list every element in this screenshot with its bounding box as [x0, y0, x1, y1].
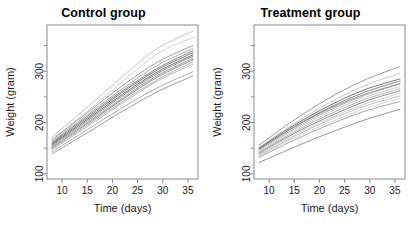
- svg-text:Weight (gram): Weight (gram): [211, 67, 223, 136]
- svg-text:200: 200: [34, 114, 45, 131]
- svg-text:300: 300: [34, 62, 45, 79]
- panel-control-group: Control group 100200300101520253035Time …: [0, 0, 207, 231]
- svg-text:10: 10: [57, 185, 69, 196]
- svg-text:10: 10: [264, 185, 276, 196]
- series-group-treatment: [259, 67, 400, 163]
- svg-text:Time (days): Time (days): [94, 202, 152, 214]
- svg-text:25: 25: [339, 185, 351, 196]
- svg-text:100: 100: [34, 165, 45, 182]
- plot-area-control: 100200300101520253035Time (days)Weight (…: [0, 0, 207, 231]
- growth-curve: [259, 79, 400, 148]
- svg-text:15: 15: [82, 185, 94, 196]
- svg-text:Weight (gram): Weight (gram): [4, 67, 16, 136]
- growth-curve: [52, 72, 193, 152]
- figure-root: Control group 100200300101520253035Time …: [0, 0, 414, 231]
- plot-area-treatment: 100200300101520253035Time (days)Weight (…: [207, 0, 414, 231]
- svg-text:Time (days): Time (days): [301, 202, 359, 214]
- svg-text:30: 30: [364, 185, 376, 196]
- svg-text:100: 100: [241, 165, 252, 182]
- svg-text:35: 35: [182, 185, 194, 196]
- svg-text:20: 20: [107, 185, 119, 196]
- svg-text:30: 30: [157, 185, 169, 196]
- growth-curve: [52, 76, 193, 154]
- svg-text:20: 20: [314, 185, 326, 196]
- growth-curve: [52, 31, 193, 137]
- svg-text:300: 300: [241, 62, 252, 79]
- panel-treatment-group: Treatment group 100200300101520253035Tim…: [207, 0, 414, 231]
- svg-text:200: 200: [241, 114, 252, 131]
- svg-text:15: 15: [289, 185, 301, 196]
- growth-curve: [259, 84, 400, 150]
- axes-group-control: 100200300101520253035Time (days)Weight (…: [4, 25, 198, 214]
- svg-text:35: 35: [389, 185, 401, 196]
- svg-text:25: 25: [132, 185, 144, 196]
- series-group-control: [52, 31, 193, 154]
